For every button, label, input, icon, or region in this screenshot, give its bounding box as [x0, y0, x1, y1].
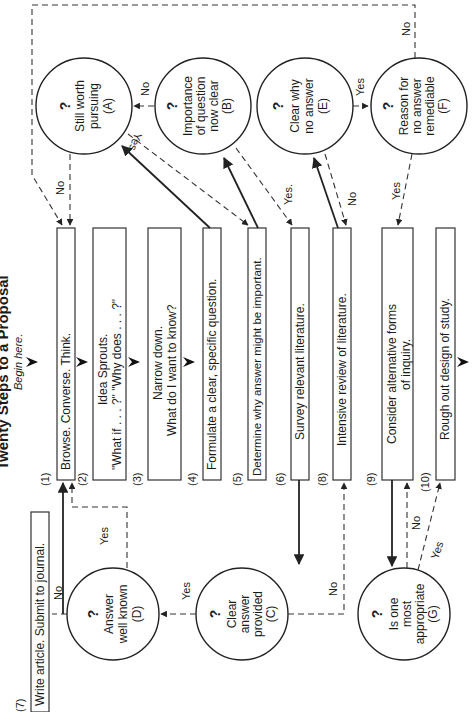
step-text: Write article. Submit to journal.: [33, 543, 47, 706]
connector-d-yes: [72, 483, 127, 568]
svg-text:Is one: Is one: [387, 597, 401, 630]
svg-text:(F): (F): [436, 98, 450, 113]
decision-f: ? Reason for no answer remediable (F): [371, 58, 467, 154]
flow-arrow-icon: [128, 357, 140, 367]
svg-text:?: ?: [57, 102, 73, 111]
svg-text:pursuing: pursuing: [87, 83, 101, 129]
step-number: (10): [419, 472, 431, 492]
step-number: (4): [186, 473, 198, 486]
step-box-2: (2) Idea Sprouts. "What if . . . ?" "Why…: [76, 228, 126, 486]
connector-5-to-b: [224, 158, 258, 228]
step-text: Determine why answer might be important.: [251, 257, 263, 476]
decision-d: ? Answer well known (D): [67, 568, 159, 660]
svg-text:No: No: [54, 181, 66, 195]
step-box-5: (5) Determine why answer might be import…: [231, 228, 266, 486]
svg-text:Yes: Yes: [180, 582, 192, 600]
step-number: (9): [365, 473, 377, 486]
svg-text:(C): (C): [264, 606, 278, 623]
diagram-title: Twenty Steps to a Proposal: [0, 275, 11, 470]
start-label: Begin here.: [12, 334, 24, 390]
svg-text:of question: of question: [194, 77, 208, 136]
step-box-10: (10) Rough out design of study.: [419, 228, 455, 492]
svg-text:Yes: Yes: [354, 78, 366, 96]
step-box-9: (9) Consider alternative forms of inquir…: [365, 228, 413, 486]
svg-text:?: ?: [270, 102, 286, 111]
svg-text:No: No: [139, 82, 151, 96]
svg-text:?: ?: [164, 102, 180, 111]
svg-text:answer: answer: [238, 595, 252, 634]
flow-arrow-icon: [76, 357, 88, 367]
step-text: What do I want to know?: [165, 304, 179, 436]
step-text: Formulate a clear, specific question.: [205, 279, 219, 470]
svg-text:No: No: [410, 516, 422, 530]
step-text: Browse. Converse. Think.: [59, 333, 73, 470]
svg-text:No: No: [346, 192, 358, 206]
step-number: (3): [131, 473, 143, 486]
svg-text:?: ?: [380, 102, 396, 111]
flow-arrow-icon: [183, 357, 195, 367]
step-number: (2): [76, 473, 88, 486]
svg-text:provided: provided: [251, 591, 265, 637]
svg-text:(D): (D): [130, 606, 144, 623]
svg-text:No: No: [400, 22, 412, 36]
svg-text:Reason for: Reason for: [397, 77, 411, 136]
svg-text:Still worth: Still worth: [73, 80, 87, 132]
step-box-4: (4) Formulate a clear, specific question…: [186, 228, 221, 486]
svg-text:(G): (G): [426, 605, 440, 622]
step-text: Idea Sprouts.: [96, 334, 110, 405]
step-text: Consider alternative forms: [385, 304, 399, 444]
svg-text:?: ?: [207, 610, 223, 619]
svg-text:?: ?: [369, 610, 385, 619]
step-box-7: (7) Write article. Submit to journal.: [14, 512, 49, 712]
svg-text:(A): (A): [101, 98, 115, 114]
connector-8-to-e: [314, 158, 338, 228]
connector-e-no: [325, 154, 346, 225]
svg-text:remediable: remediable: [423, 76, 437, 136]
decision-a: ? Still worth pursuing (A): [36, 58, 132, 154]
decision-b: ? Importance of question now clear (B): [155, 58, 251, 154]
decision-e: ? Clear why no answer (E): [257, 58, 353, 154]
decision-g: ? Is one most appropriate (G): [358, 568, 450, 660]
svg-text:(E): (E): [316, 98, 330, 114]
step-number: (7): [14, 699, 26, 712]
svg-text:Clear why: Clear why: [288, 79, 302, 132]
svg-text:most: most: [400, 600, 414, 627]
step-text: of inquiry.: [399, 339, 413, 390]
svg-text:no answer: no answer: [302, 78, 316, 133]
step-box-3: (3) Narrow down. What do I want to know?: [131, 228, 181, 486]
connector-4-to-a: [122, 146, 210, 228]
step-number: (1): [39, 473, 51, 486]
svg-text:Yes: Yes: [390, 182, 402, 200]
step-text: Rough out design of study.: [438, 298, 452, 440]
step-text: Intensive review of literature.: [335, 293, 349, 446]
step-box-8: (8) Intensive review of literature.: [316, 228, 351, 486]
svg-text:Answer: Answer: [102, 594, 116, 634]
svg-text:Clear: Clear: [225, 600, 239, 629]
svg-text:now clear: now clear: [207, 80, 221, 131]
svg-text:Yes.: Yes.: [282, 184, 294, 205]
step-text: "What if . . . ?" "Why does . . . ?": [110, 299, 124, 470]
decision-c: ? Clear answer provided (C): [196, 568, 288, 660]
svg-text:Importance: Importance: [181, 76, 195, 136]
step-number: (8): [316, 473, 328, 486]
svg-text:Yes: Yes: [98, 527, 110, 545]
step-box-6: (6) Survey relevant literature.: [274, 228, 309, 486]
svg-text:Yes: Yes: [428, 539, 445, 560]
step-number: (6): [274, 473, 286, 486]
svg-text:?: ?: [85, 610, 101, 619]
step-text: Survey relevant literature.: [293, 303, 307, 440]
step-text: Narrow down.: [151, 326, 165, 400]
step-number: (5): [231, 473, 243, 486]
flowchart-canvas: Twenty Steps to a Proposal Begin here. (…: [0, 0, 472, 712]
svg-text:No: No: [327, 582, 339, 596]
svg-text:no answer: no answer: [410, 78, 424, 133]
svg-text:(B): (B): [220, 98, 234, 114]
svg-text:appropriate: appropriate: [413, 583, 427, 644]
flow-arrow-icon: [457, 357, 469, 367]
svg-text:well known: well known: [116, 585, 130, 645]
begin-arrow-icon: [26, 357, 38, 367]
step-box-1: (1) Browse. Converse. Think.: [39, 228, 75, 486]
svg-text:No: No: [52, 586, 64, 600]
